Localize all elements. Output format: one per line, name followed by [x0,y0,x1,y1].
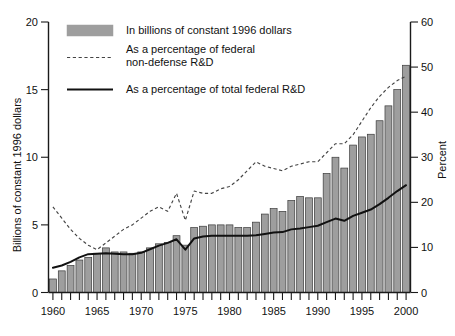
bar-1964 [85,257,92,292]
x-tick-label-1980: 1980 [217,305,241,317]
legend-bar-swatch [67,25,113,36]
bar-1983 [253,222,260,292]
bar-1961 [58,271,65,293]
bar-1969 [129,253,136,292]
bar-1960 [49,279,56,293]
bar-1981 [235,228,242,293]
bar-1967 [111,252,118,293]
left-tick-label-0: 0 [32,287,38,299]
bar-1990 [314,198,321,293]
legend-label-nondefense-line2: non-defense R&D [126,56,213,68]
bar-1963 [76,260,83,292]
x-tick-label-1960: 1960 [41,305,65,317]
x-tick-label-1975: 1975 [173,305,197,317]
bar-1971 [147,248,154,293]
bar-1986 [279,211,286,292]
x-tick-label-1990: 1990 [306,305,330,317]
bar-1988 [297,196,304,292]
left-tick-label-10: 10 [26,151,38,163]
bar-1974 [173,236,180,293]
left-tick-label-15: 15 [26,84,38,96]
right-axis-title: Percent [436,141,448,179]
bar-1970 [138,252,145,293]
x-tick-label-2000: 2000 [394,305,418,317]
bar-1992 [332,157,339,292]
rd-funding-chart: 05101520 0102030405060 19601965197019751… [0,0,455,336]
legend-label-nondefense-line1: As a percentage of federal [126,43,255,55]
right-tick-label-30: 30 [421,151,433,163]
x-tick-label-1985: 1985 [261,305,285,317]
bar-1968 [120,252,127,293]
right-tick-label-60: 60 [421,16,433,28]
right-tick-label-0: 0 [421,287,427,299]
bar-1973 [164,242,171,292]
bar-1965 [94,253,101,292]
bar-1982 [244,228,251,293]
bar-2000 [403,65,410,292]
left-tick-label-20: 20 [26,16,38,28]
bar-1975 [182,245,189,292]
bar-1966 [102,248,109,293]
bar-1994 [350,145,357,292]
right-tick-label-40: 40 [421,106,433,118]
bar-1972 [155,244,162,293]
bar-1996 [367,134,374,292]
left-axis-title: Billions of constant 1996 dollars [11,97,23,252]
bar-1989 [306,198,313,293]
legend-label-bars: In billions of constant 1996 dollars [126,24,292,36]
x-tick-label-1995: 1995 [350,305,374,317]
right-tick-label-10: 10 [421,241,433,253]
x-tick-label-1965: 1965 [85,305,109,317]
bar-1985 [270,209,277,293]
bar-1991 [323,173,330,292]
bar-1995 [359,137,366,293]
legend-label-total-federal: As a percentage of total federal R&D [126,83,305,95]
right-tick-label-20: 20 [421,196,433,208]
bar-1962 [67,265,74,292]
chart-container: 05101520 0102030405060 19601965197019751… [0,0,455,336]
right-tick-label-50: 50 [421,61,433,73]
bar-1993 [341,168,348,292]
left-tick-label-5: 5 [32,219,38,231]
bar-1987 [288,201,295,293]
x-axis-ticks: 196019651970197519801985199019952000 [41,293,419,318]
x-tick-label-1970: 1970 [129,305,153,317]
bar-1984 [261,214,268,292]
